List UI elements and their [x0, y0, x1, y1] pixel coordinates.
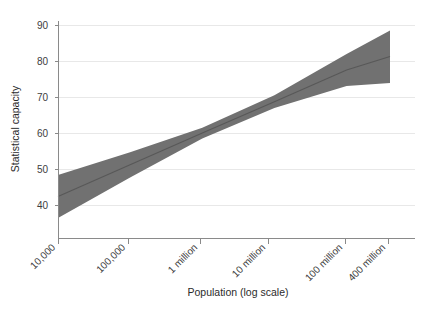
y-ticklabel-0: 90 — [37, 20, 49, 31]
y-ticklabel-1: 80 — [37, 56, 49, 67]
x-ticklabel-3: 10 million — [230, 242, 268, 280]
x-tickmarks — [59, 239, 389, 244]
x-ticklabels: 10,000 100,000 1 million 10 million 100 … — [28, 241, 387, 283]
y-ticklabels: 90 80 70 60 50 40 — [37, 20, 49, 211]
x-ticklabel-1: 100,000 — [94, 241, 128, 275]
confidence-band-group — [58, 31, 390, 219]
y-ticklabel-2: 70 — [37, 92, 49, 103]
x-ticklabel-2: 1 million — [166, 242, 200, 276]
x-axis-title: Population (log scale) — [188, 286, 289, 298]
y-ticklabel-4: 50 — [37, 164, 49, 175]
x-ticklabel-0: 10,000 — [28, 241, 58, 271]
y-ticklabel-5: 40 — [37, 200, 49, 211]
x-ticklabel-5: 400 million — [346, 242, 388, 284]
y-tickmarks — [55, 26, 59, 206]
chart-svg: 90 80 70 60 50 40 10,000 100,000 1 milli… — [0, 0, 426, 310]
y-ticklabel-3: 60 — [37, 128, 49, 139]
confidence-band — [58, 31, 390, 219]
y-axis-title: Statistical capacity — [9, 85, 21, 172]
chart-figure: 90 80 70 60 50 40 10,000 100,000 1 milli… — [0, 0, 426, 310]
x-ticklabel-4: 100 million — [303, 242, 345, 284]
